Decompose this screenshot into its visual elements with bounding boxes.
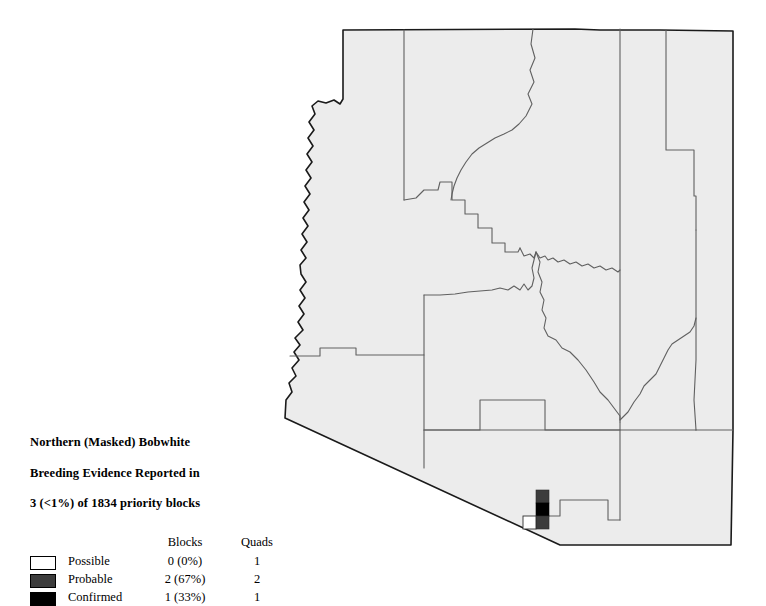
legend-blocks-probable: 2 (67%) (144, 570, 226, 588)
evidence-block-possible (523, 516, 536, 529)
legend-row-possible: Possible 0 (0%) 1 (30, 552, 288, 570)
legend-label-probable: Probable (68, 570, 144, 588)
legend-quads-possible: 1 (226, 552, 288, 570)
legend-panel: Northern (Masked) Bobwhite Breeding Evid… (30, 420, 315, 606)
legend-header-blocks: Blocks (144, 533, 226, 552)
possible-swatch (30, 556, 56, 570)
legend-title-line-1: Northern (Masked) Bobwhite (30, 435, 315, 450)
probable-swatch (30, 574, 56, 588)
confirmed-swatch (30, 592, 56, 606)
legend-row-confirmed: Confirmed 1 (33%) 1 (30, 588, 288, 606)
legend-blocks-possible: 0 (0%) (144, 552, 226, 570)
legend-title: Northern (Masked) Bobwhite Breeding Evid… (30, 420, 315, 526)
legend-quads-confirmed: 1 (226, 588, 288, 606)
legend-label-possible: Possible (68, 552, 144, 570)
evidence-block-confirmed (536, 503, 549, 516)
legend-header-label (68, 533, 144, 552)
legend-title-line-3: 3 (<1%) of 1834 priority blocks (30, 496, 315, 511)
legend-label-confirmed: Confirmed (68, 588, 144, 606)
evidence-block-probable-north (536, 490, 549, 503)
legend-row-probable: Probable 2 (67%) 2 (30, 570, 288, 588)
evidence-block-probable-south (536, 516, 549, 529)
legend-header-quads: Quads (226, 533, 288, 552)
legend-title-line-2: Breeding Evidence Reported in (30, 466, 315, 481)
legend-table: Blocks Quads Possible 0 (0%) 1 Probable … (30, 533, 288, 606)
legend-header-row: Blocks Quads (30, 533, 288, 552)
legend-blocks-confirmed: 1 (33%) (144, 588, 226, 606)
legend-quads-probable: 2 (226, 570, 288, 588)
legend-header-swatch (30, 533, 68, 552)
